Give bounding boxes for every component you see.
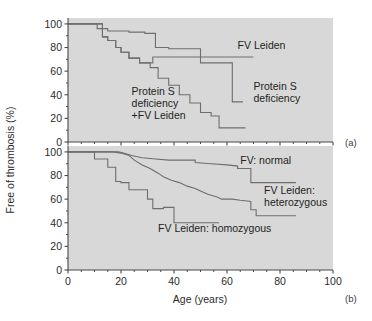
- y-tick-label: 0: [56, 264, 62, 276]
- thrombosis-survival-chart: 020406080100 020406080100020406080100 FV…: [0, 0, 372, 321]
- curve-annotation: FV Leiden:: [264, 184, 315, 196]
- curve-annotation: Protein S: [132, 85, 175, 97]
- y-tick-label: 60: [50, 65, 62, 77]
- curve-annotation: deficiency: [132, 97, 179, 109]
- y-tick-label: 40: [50, 217, 62, 229]
- figure-container: 020406080100 020406080100020406080100 FV…: [0, 0, 372, 321]
- x-tick-label: 20: [115, 275, 127, 287]
- panel-b-tag: (b): [345, 293, 357, 304]
- y-tick-label: 60: [50, 193, 62, 205]
- curve-annotation: FV: normal: [240, 154, 291, 166]
- curve-annotation: heterozygous: [264, 196, 327, 208]
- curve-annotation: +FV Leiden: [132, 109, 186, 121]
- y-tick-label: 100: [44, 146, 62, 158]
- y-tick-label: 20: [50, 112, 62, 124]
- curve-annotation: Protein S: [254, 80, 297, 92]
- x-tick-label: 100: [324, 275, 342, 287]
- panel-a-tag: (a): [345, 137, 357, 148]
- curve-annotation: deficiency: [254, 92, 301, 104]
- curve-annotation: FV Leiden: homozygous: [158, 222, 271, 234]
- x-tick-label: 60: [221, 275, 233, 287]
- x-tick-label: 40: [168, 275, 180, 287]
- curve-annotation: FV Leiden: [238, 39, 286, 51]
- y-tick-label: 20: [50, 240, 62, 252]
- x-axis-title: Age (years): [173, 293, 227, 305]
- panel-a-tick-labels: 020406080100: [44, 18, 62, 148]
- y-tick-label: 80: [50, 169, 62, 181]
- x-tick-label: 0: [65, 275, 71, 287]
- y-tick-label: 40: [50, 89, 62, 101]
- x-tick-label: 80: [274, 275, 286, 287]
- y-tick-label: 80: [50, 41, 62, 53]
- y-tick-label: 100: [44, 18, 62, 30]
- y-axis-title: Free of thrombosis (%): [4, 107, 16, 214]
